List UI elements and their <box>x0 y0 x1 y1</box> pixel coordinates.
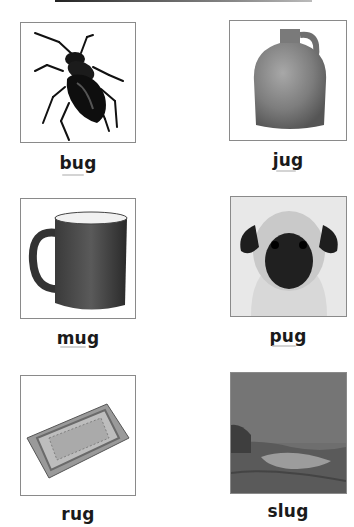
picture-card-bug <box>20 22 136 143</box>
word-label-bug: bug <box>38 153 118 173</box>
tracing-guide <box>272 345 296 347</box>
word-label-slug: slug <box>248 501 328 521</box>
jug-icon <box>230 21 346 140</box>
beetle-icon <box>21 23 135 142</box>
word-label-jug: jug <box>248 150 328 170</box>
picture-card-slug <box>230 372 347 494</box>
picture-card-rug <box>20 375 136 496</box>
picture-card-mug <box>20 198 136 319</box>
top-divider <box>55 0 312 2</box>
mug-icon <box>21 199 135 318</box>
word-label-mug: mug <box>38 328 118 348</box>
tracing-guide <box>62 174 84 176</box>
word-label-rug: rug <box>38 504 118 524</box>
tracing-guide <box>60 346 86 348</box>
tracing-guide <box>276 170 296 172</box>
picture-card-pug <box>230 196 347 317</box>
slug-icon <box>231 373 346 493</box>
pug-dog-icon <box>231 197 346 316</box>
word-label-pug: pug <box>248 326 328 346</box>
rug-icon <box>21 376 135 495</box>
picture-card-jug <box>229 20 347 141</box>
